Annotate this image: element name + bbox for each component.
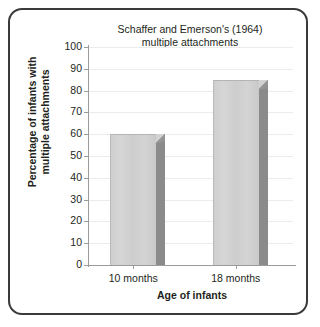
y-axis-tick-label: 10 xyxy=(56,236,82,248)
y-axis-tick-label: 50 xyxy=(56,149,82,161)
gridline xyxy=(88,47,293,48)
y-axis-title-container: Percentage of infants with multiple atta… xyxy=(26,32,56,212)
y-axis-title: Percentage of infants with multiple atta… xyxy=(26,32,51,212)
y-axis-tick-label: 0 xyxy=(56,258,82,270)
y-axis-tick-label: 100 xyxy=(56,40,82,52)
y-axis-tick-label: 90 xyxy=(56,62,82,74)
chart-title: Schaffer and Emerson's (1964) multiple a… xyxy=(80,23,300,48)
bar-front-face xyxy=(110,134,156,265)
y-axis-tick-label: 60 xyxy=(56,127,82,139)
bar-front-face xyxy=(213,80,259,265)
y-axis-tick-label: 30 xyxy=(56,193,82,205)
gridline xyxy=(88,69,293,70)
bar xyxy=(213,80,259,265)
x-axis-category-label: 10 months xyxy=(93,272,173,284)
x-axis-line xyxy=(88,265,296,266)
figure-frame: Schaffer and Emerson's (1964) multiple a… xyxy=(8,8,308,315)
bar-side-face xyxy=(259,88,268,265)
x-axis-tick xyxy=(236,265,237,269)
bar-top-face xyxy=(156,134,165,143)
y-axis-tick-label: 80 xyxy=(56,84,82,96)
bar-top-face xyxy=(259,80,268,89)
bar xyxy=(110,134,156,265)
plot-area: 1009080706050403020100 xyxy=(88,47,293,265)
y-axis-line xyxy=(88,45,89,267)
y-axis-tick-label: 20 xyxy=(56,214,82,226)
bar-chart: Schaffer and Emerson's (1964) multiple a… xyxy=(10,10,306,313)
x-axis-title: Age of infants xyxy=(88,289,296,301)
x-axis-category-label: 18 months xyxy=(196,272,276,284)
y-axis-tick-label: 40 xyxy=(56,171,82,183)
x-axis-tick xyxy=(133,265,134,269)
y-axis-tick-label: 70 xyxy=(56,105,82,117)
bar-side-face xyxy=(156,142,165,265)
